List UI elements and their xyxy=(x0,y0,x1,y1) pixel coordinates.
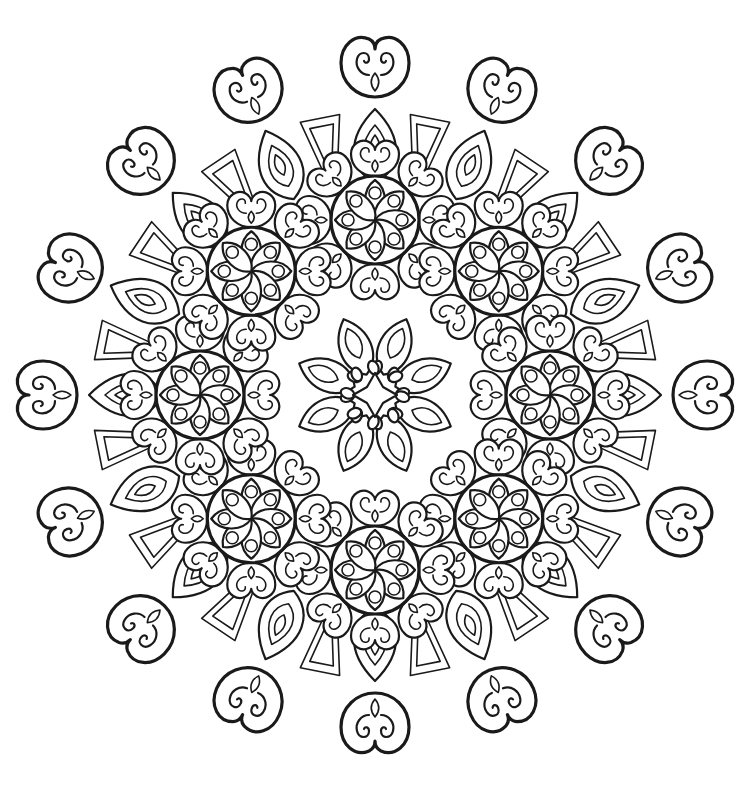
mandala-artwork xyxy=(0,0,749,787)
central-star xyxy=(293,313,457,477)
